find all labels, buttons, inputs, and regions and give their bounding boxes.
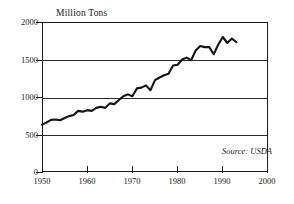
x-tick-mark-1960 <box>87 166 88 173</box>
gridline-1000 <box>43 98 267 99</box>
x-tick-mark-2000 <box>267 166 268 173</box>
chart-container: Million Tons 2000 1500 1000 500 0 1950 1… <box>0 0 294 204</box>
source-annotation: Source: USDA <box>222 146 272 156</box>
x-tick-mark-1990 <box>222 166 223 173</box>
x-tick-label-1970: 1970 <box>124 176 141 186</box>
x-tick-label-2000: 2000 <box>259 176 276 186</box>
x-tick-label-1960: 1960 <box>79 176 96 186</box>
x-tick-label-1980: 1980 <box>169 176 186 186</box>
x-tick-mark-1970 <box>132 166 133 173</box>
gridline-500 <box>43 135 267 136</box>
x-tick-mark-1980 <box>177 166 178 173</box>
x-tick-mark-1950 <box>42 166 43 173</box>
gridline-1500 <box>43 60 267 61</box>
chart-axis-title: Million Tons <box>56 8 107 18</box>
y-axis-labels: 2000 1500 1000 500 0 <box>0 0 38 204</box>
x-tick-label-1990: 1990 <box>214 176 231 186</box>
x-tick-label-1950: 1950 <box>34 176 51 186</box>
